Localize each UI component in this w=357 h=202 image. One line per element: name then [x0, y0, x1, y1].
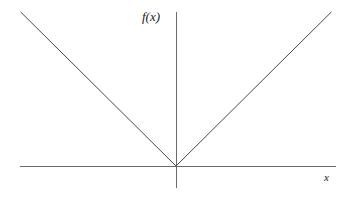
- x-axis-label: x: [324, 172, 329, 183]
- y-axis-label: f(x): [142, 10, 160, 23]
- axes-group: [20, 12, 336, 188]
- function-plot-figure: f(x) x: [0, 0, 357, 202]
- plot-canvas: [0, 0, 357, 202]
